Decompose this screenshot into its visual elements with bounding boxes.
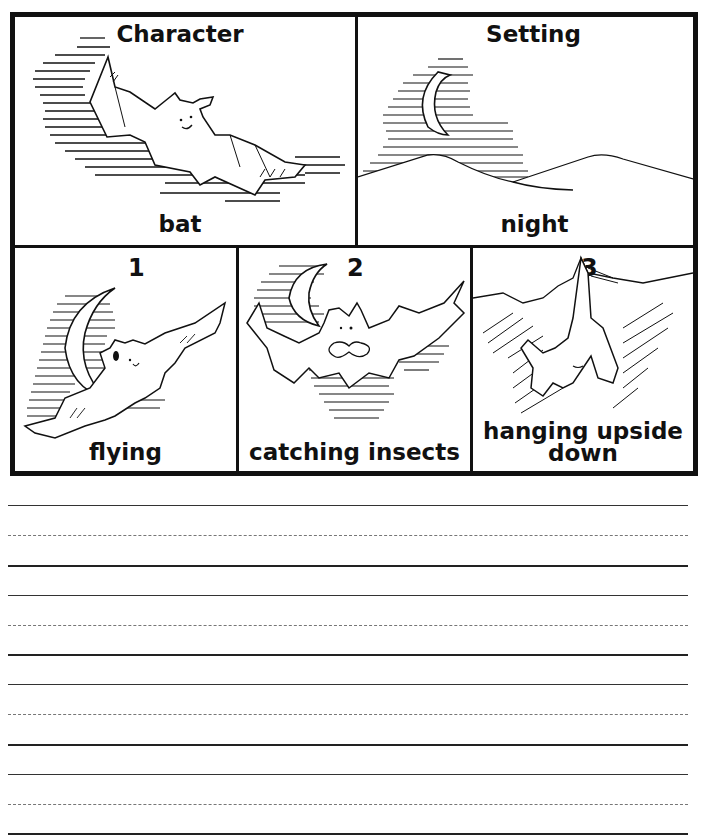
character-panel: Character: [15, 17, 355, 245]
step-caption-3-line1: hanging upside: [473, 420, 693, 442]
writing-line-top-1: [8, 505, 688, 506]
writing-line-top-4: [8, 774, 688, 775]
writing-line-mid-1: [8, 535, 688, 536]
writing-line-top-2: [8, 595, 688, 596]
setting-panel: Setting night: [358, 17, 693, 245]
sequence-panel-3: 3 hanging upside down: [473, 248, 693, 471]
sequence-panel-1: 1 flying: [15, 248, 236, 471]
step-caption-3: hanging upside down: [473, 420, 693, 464]
character-answer: bat: [15, 213, 355, 235]
step-caption-3-line2: down: [473, 442, 693, 464]
writing-line-base-3: [8, 744, 688, 746]
sequence-panel-2: 2 catching insects: [239, 248, 470, 471]
bat-flying-moon-icon: [15, 248, 236, 471]
writing-line-mid-2: [8, 625, 688, 626]
setting-answer: night: [376, 213, 693, 235]
writing-line-mid-3: [8, 714, 688, 715]
writing-line-mid-4: [8, 804, 688, 805]
writing-line-base-2: [8, 654, 688, 656]
step-caption-2: catching insects: [239, 441, 470, 463]
writing-line-base-4: [8, 833, 688, 835]
story-map-frame: Character: [10, 12, 698, 476]
writing-line-top-3: [8, 684, 688, 685]
writing-line-base-1: [8, 565, 688, 567]
step-caption-1: flying: [15, 441, 236, 463]
bat-eating-insect-icon: [239, 248, 470, 471]
